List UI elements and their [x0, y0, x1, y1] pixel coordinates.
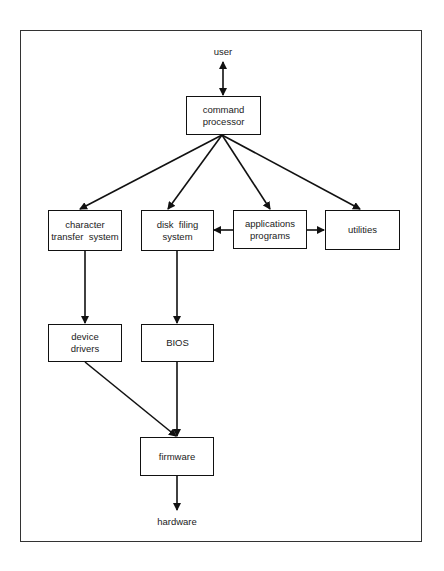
- disk-filing-line2: system: [157, 231, 199, 243]
- diagram-canvas: user command processor character transfe…: [0, 0, 444, 571]
- node-firmware: firmware: [140, 437, 214, 476]
- edge-command-character: [80, 135, 222, 209]
- edges-layer: [0, 0, 444, 571]
- node-character-transfer-system: character transfer system: [48, 210, 122, 251]
- disk-filing-line1: disk filing: [157, 219, 199, 231]
- device-drivers-line2: drivers: [71, 343, 100, 355]
- node-device-drivers: device drivers: [48, 324, 122, 362]
- node-disk-filing-system: disk filing system: [141, 210, 214, 251]
- node-user: user: [183, 46, 263, 57]
- edge-command-utilities: [222, 135, 360, 209]
- applications-line2: programs: [245, 230, 295, 242]
- utilities-label: utilities: [348, 224, 377, 236]
- edge-command-applications: [222, 135, 270, 209]
- node-hardware: hardware: [137, 516, 217, 527]
- character-transfer-line1: character: [51, 219, 119, 231]
- node-applications-programs: applications programs: [233, 210, 307, 249]
- edge-devices-firmware: [85, 362, 176, 436]
- node-utilities: utilities: [325, 210, 400, 250]
- device-drivers-line1: device: [71, 331, 100, 343]
- character-transfer-line2: transfer system: [51, 231, 119, 243]
- bios-label: BIOS: [166, 337, 189, 349]
- node-command-processor: command processor: [186, 96, 261, 135]
- edge-command-disk: [168, 135, 222, 209]
- applications-line1: applications: [245, 218, 295, 230]
- firmware-label: firmware: [159, 451, 195, 463]
- command-processor-line2: processor: [203, 116, 245, 128]
- command-processor-line1: command: [203, 104, 245, 116]
- node-bios: BIOS: [141, 324, 214, 362]
